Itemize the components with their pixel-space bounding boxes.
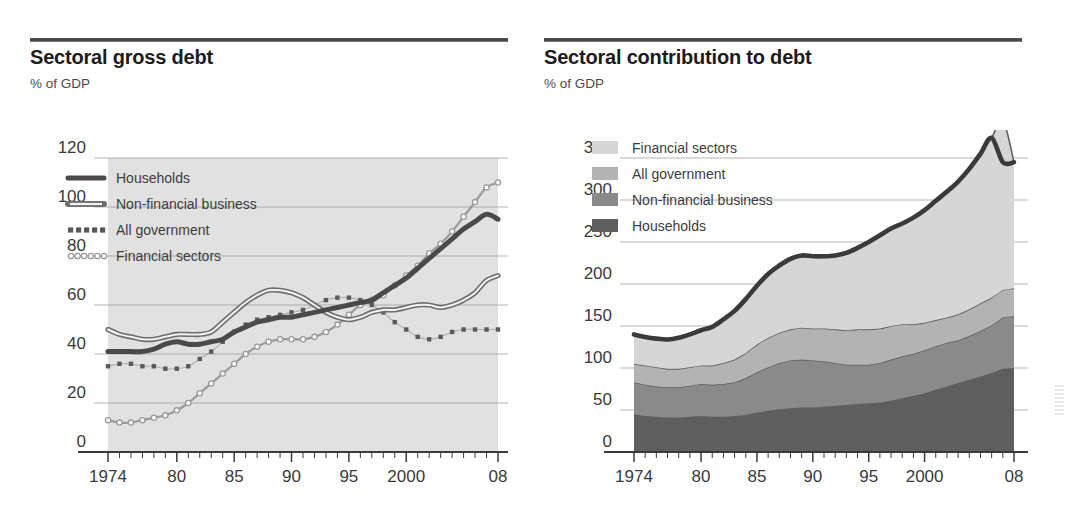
y-axis-tick-left: 60 (67, 285, 86, 304)
legend-item: All government (592, 166, 725, 182)
legend-item: Non-financial business (68, 196, 257, 212)
legend-item: Non-financial business (592, 192, 773, 208)
legend-item: Households (68, 170, 190, 186)
x-axis-tick-left: 85 (225, 467, 244, 486)
x-axis-tick-right: 08 (1005, 467, 1024, 486)
legend-swatch-all-government (68, 227, 105, 232)
legend-label: Non-financial business (632, 192, 773, 208)
panel-sectoral-gross-debt: Sectoral gross debt % of GDP 02040608010… (0, 0, 536, 510)
y-axis-tick-right: 150 (584, 306, 612, 325)
y-axis-tick-right: 0 (603, 432, 612, 451)
x-axis-tick-left: 08 (489, 467, 508, 486)
legend-label: Non-financial business (116, 196, 257, 212)
legend-label: Financial sectors (116, 248, 221, 264)
x-axis-tick-right: 1974 (615, 467, 653, 486)
stacked-area-svg: 050100150200250300350197480859095200008F… (544, 130, 1030, 490)
x-axis-tick-right: 85 (747, 467, 766, 486)
legend-label: Households (632, 218, 706, 234)
chart-title-left: Sectoral gross debt (30, 46, 213, 69)
y-axis-tick-left: 120 (58, 138, 86, 157)
legend-swatch (592, 219, 618, 232)
legend-item: All government (68, 222, 209, 238)
legend-label: All government (632, 166, 725, 182)
y-axis-tick-left: 0 (77, 432, 86, 451)
legend-swatch (592, 141, 618, 154)
legend-swatch (592, 167, 618, 180)
legend-right: Financial sectorsAll governmentNon-finan… (592, 140, 773, 234)
panel-sectoral-contribution: Sectoral contribution to debt % of GDP 0… (536, 0, 1072, 510)
x-axis-tick-right: 95 (859, 467, 878, 486)
scan-artifact (1054, 385, 1064, 415)
legend-swatch (592, 193, 618, 206)
stacked-area-chart-contribution: 050100150200250300350197480859095200008F… (544, 130, 1030, 490)
x-axis-tick-left: 1974 (89, 467, 127, 486)
chart-subtitle-left: % of GDP (30, 76, 90, 91)
legend-label: All government (116, 222, 209, 238)
legend-label: Households (116, 170, 190, 186)
line-chart-svg: 020406080100120197480859095200008Househo… (30, 130, 508, 490)
x-axis-tick-left: 90 (282, 467, 301, 486)
y-axis-tick-right: 100 (584, 348, 612, 367)
y-axis-tick-left: 80 (67, 236, 86, 255)
chart-title-right: Sectoral contribution to debt (544, 46, 812, 69)
legend-label: Financial sectors (632, 140, 737, 156)
y-axis-tick-left: 40 (67, 334, 86, 353)
line-chart-gross-debt: 020406080100120197480859095200008Househo… (30, 130, 508, 490)
legend-item: Financial sectors (68, 248, 221, 264)
y-axis-tick-left: 20 (67, 383, 86, 402)
x-axis-tick-right: 2000 (906, 467, 944, 486)
legend-item: Households (592, 218, 706, 234)
legend-item: Financial sectors (592, 140, 737, 156)
chart-subtitle-right: % of GDP (544, 76, 604, 91)
x-axis-tick-left: 80 (167, 467, 186, 486)
x-axis-tick-right: 80 (692, 467, 711, 486)
x-axis-tick-left: 95 (339, 467, 358, 486)
y-axis-tick-right: 50 (593, 390, 612, 409)
y-axis-tick-right: 200 (584, 264, 612, 283)
title-rule-left (30, 38, 508, 42)
title-rule-right (544, 38, 1022, 42)
x-axis-tick-right: 90 (803, 467, 822, 486)
x-axis-tick-left: 2000 (387, 467, 425, 486)
